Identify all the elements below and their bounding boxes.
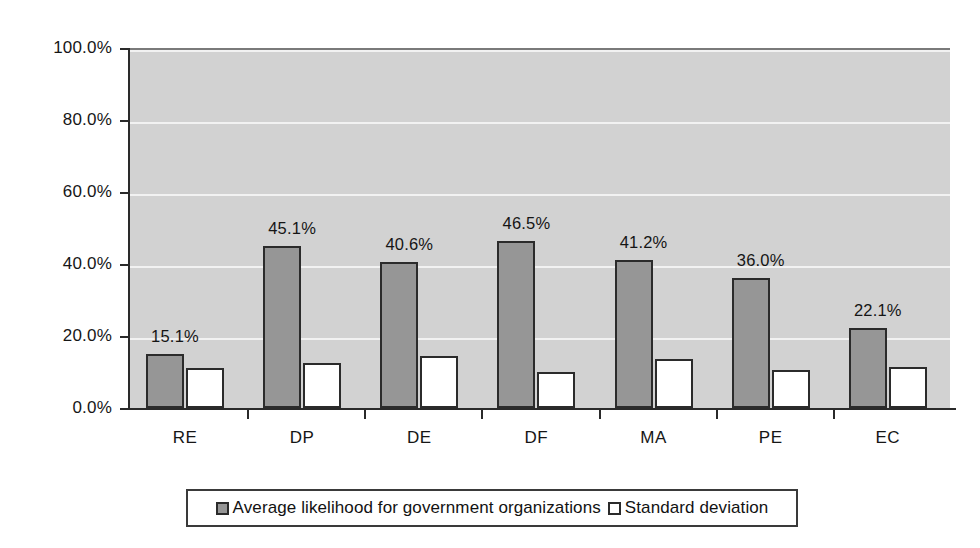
bar-average-likelihood — [146, 354, 184, 408]
y-axis-tick-mark — [120, 264, 129, 266]
x-axis-category-label: DP — [290, 428, 315, 448]
y-axis-tick-labels: 0.0%20.0%40.0%60.0%80.0%100.0% — [0, 40, 112, 416]
bar-standard-deviation — [186, 368, 224, 408]
bar-group — [732, 48, 810, 408]
x-axis-category-label: RE — [173, 428, 198, 448]
y-axis-tick-label: 20.0% — [63, 326, 112, 346]
x-axis-category-label: PE — [759, 428, 783, 448]
bar-value-label: 40.6% — [385, 235, 433, 254]
chart-legend: Average likelihood for government organi… — [186, 489, 798, 527]
y-axis-tick-mark — [120, 336, 129, 338]
y-axis-tick-label: 60.0% — [63, 182, 112, 202]
bar-average-likelihood — [732, 278, 770, 408]
bar-average-likelihood — [849, 328, 887, 408]
bar-average-likelihood — [380, 262, 418, 408]
x-axis-tick-mark — [599, 410, 601, 419]
bar-group — [146, 48, 224, 408]
y-axis-tick-label: 80.0% — [63, 110, 112, 130]
y-axis-tick-mark — [120, 408, 129, 410]
legend-label: Standard deviation — [625, 498, 769, 518]
bar-value-label: 45.1% — [268, 219, 316, 238]
y-axis-tick-mark — [120, 48, 129, 50]
bar-standard-deviation — [889, 367, 927, 408]
bars-layer: 15.1%45.1%40.6%46.5%41.2%36.0%22.1% — [130, 48, 950, 408]
bar-group — [849, 48, 927, 408]
bar-value-label: 22.1% — [854, 301, 902, 320]
bar-chart-figure: 0.0%20.0%40.0%60.0%80.0%100.0% 15.1%45.1… — [0, 0, 980, 548]
bar-standard-deviation — [303, 363, 341, 408]
bar-standard-deviation — [537, 372, 575, 408]
x-axis-tick-mark — [833, 410, 835, 419]
x-axis-tick-mark — [247, 410, 249, 419]
legend-entry: Standard deviation — [608, 498, 769, 518]
legend-label: Average likelihood for government organi… — [233, 498, 601, 518]
bar-value-label: 41.2% — [620, 233, 668, 252]
x-axis-category-labels: REDPDEDFMAPEEC — [130, 428, 950, 458]
x-axis-category-label: DF — [525, 428, 549, 448]
bar-value-label: 15.1% — [151, 327, 199, 346]
x-axis-category-label: DE — [407, 428, 432, 448]
legend-swatch-icon — [608, 502, 621, 515]
x-axis-category-label: EC — [876, 428, 901, 448]
bar-average-likelihood — [263, 246, 301, 408]
x-axis-tick-mark — [364, 410, 366, 419]
bar-standard-deviation — [772, 370, 810, 408]
x-axis-tick-mark — [716, 410, 718, 419]
bar-value-label: 36.0% — [737, 251, 785, 270]
y-axis-tick-mark — [120, 192, 129, 194]
bar-group — [615, 48, 693, 408]
bar-standard-deviation — [420, 356, 458, 408]
x-axis-category-label: MA — [640, 428, 667, 448]
x-axis-line — [128, 408, 956, 410]
y-axis-tick-label: 0.0% — [72, 398, 112, 418]
y-axis-tick-label: 100.0% — [53, 38, 112, 58]
x-axis-tick-mark — [481, 410, 483, 419]
bar-average-likelihood — [615, 260, 653, 408]
bar-value-label: 46.5% — [503, 214, 551, 233]
bar-group — [380, 48, 458, 408]
y-axis-tick-mark — [120, 120, 129, 122]
legend-swatch-icon — [216, 502, 229, 515]
legend-entry: Average likelihood for government organi… — [216, 498, 601, 518]
bar-average-likelihood — [497, 241, 535, 408]
y-axis-tick-label: 40.0% — [63, 254, 112, 274]
bar-standard-deviation — [655, 359, 693, 408]
